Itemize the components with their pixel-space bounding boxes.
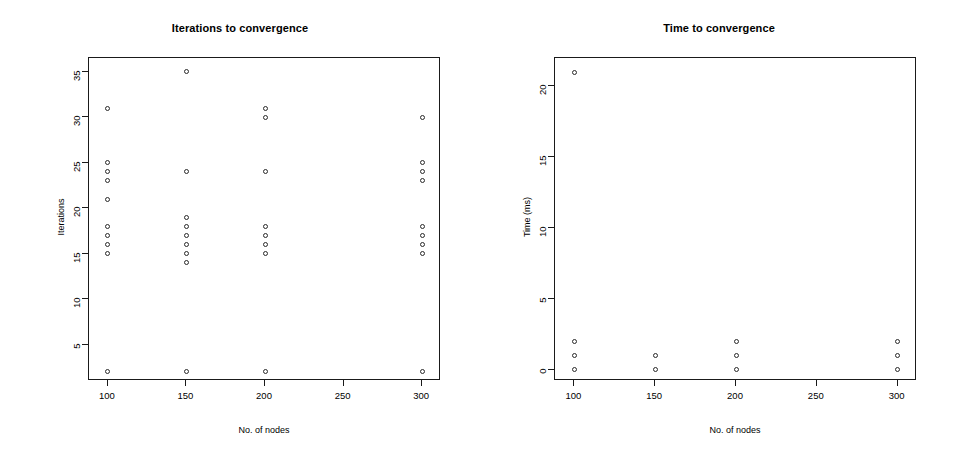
- y-axis-tick: [82, 162, 88, 163]
- data-point: [572, 353, 577, 358]
- data-point: [184, 169, 189, 174]
- x-axis-tick-label: 250: [335, 390, 351, 401]
- x-axis-tick: [654, 380, 655, 386]
- y-axis-tick-label: 5: [71, 343, 82, 361]
- data-point: [263, 369, 268, 374]
- data-point: [572, 339, 577, 344]
- y-axis-tick: [548, 369, 554, 370]
- data-point: [184, 233, 189, 238]
- data-point: [895, 367, 900, 372]
- y-axis-tick-label: 15: [71, 252, 82, 270]
- data-point: [105, 242, 110, 247]
- y-axis-tick-label: 15: [537, 156, 548, 174]
- data-point: [572, 70, 577, 75]
- y-axis-tick-label: 30: [71, 116, 82, 134]
- y-axis-tick: [548, 85, 554, 86]
- data-point: [734, 353, 739, 358]
- y-axis-tick-label: 20: [537, 85, 548, 103]
- y-axis-tick-label: 35: [71, 70, 82, 88]
- x-axis-tick: [107, 380, 108, 386]
- data-point: [263, 251, 268, 256]
- data-point: [184, 251, 189, 256]
- data-point: [184, 224, 189, 229]
- data-point: [895, 353, 900, 358]
- data-point: [263, 233, 268, 238]
- data-point: [263, 106, 268, 111]
- x-axis-tick-label: 150: [646, 390, 662, 401]
- data-point: [420, 251, 425, 256]
- x-axis-tick: [735, 380, 736, 386]
- data-point: [420, 242, 425, 247]
- data-point: [420, 233, 425, 238]
- data-point: [263, 169, 268, 174]
- y-axis-tick-label: 10: [71, 298, 82, 316]
- panel-title-right: Time to convergence: [479, 22, 959, 34]
- data-point: [420, 169, 425, 174]
- plot-area-left: [88, 57, 440, 380]
- data-point: [105, 197, 110, 202]
- data-point: [105, 178, 110, 183]
- x-axis-tick: [343, 380, 344, 386]
- x-axis-tick-label: 100: [99, 390, 115, 401]
- data-point: [263, 115, 268, 120]
- y-axis-tick: [82, 298, 88, 299]
- data-point: [653, 367, 658, 372]
- y-axis-tick: [82, 207, 88, 208]
- data-point: [105, 169, 110, 174]
- x-axis-title-right: No. of nodes: [554, 425, 916, 435]
- y-axis-tick: [548, 227, 554, 228]
- y-axis-tick-label: 20: [71, 207, 82, 225]
- figure-canvas: Iterations to convergence Iterations No.…: [0, 0, 959, 460]
- data-point: [420, 178, 425, 183]
- x-axis-tick-label: 100: [565, 390, 581, 401]
- y-axis-tick: [82, 71, 88, 72]
- y-axis-title-left: Iterations: [56, 182, 66, 252]
- data-point: [105, 106, 110, 111]
- x-axis-title-left: No. of nodes: [88, 425, 440, 435]
- data-point: [572, 367, 577, 372]
- data-point: [420, 369, 425, 374]
- data-point: [263, 224, 268, 229]
- x-axis-tick: [897, 380, 898, 386]
- panel-time-to-convergence: Time to convergence Time (ms) No. of nod…: [479, 0, 959, 460]
- data-point: [420, 224, 425, 229]
- y-axis-tick: [82, 344, 88, 345]
- data-point: [105, 233, 110, 238]
- scatter-points-left: [89, 58, 439, 379]
- data-point: [184, 242, 189, 247]
- x-axis-tick: [264, 380, 265, 386]
- data-point: [105, 369, 110, 374]
- data-point: [895, 339, 900, 344]
- x-axis-tick-label: 300: [413, 390, 429, 401]
- data-point: [184, 69, 189, 74]
- scatter-points-right: [555, 58, 915, 379]
- x-axis-tick: [185, 380, 186, 386]
- x-axis-tick-label: 150: [177, 390, 193, 401]
- panel-iterations-to-convergence: Iterations to convergence Iterations No.…: [0, 0, 480, 460]
- x-axis-tick-label: 200: [727, 390, 743, 401]
- y-axis-tick: [82, 253, 88, 254]
- y-axis-tick: [548, 156, 554, 157]
- data-point: [420, 115, 425, 120]
- data-point: [420, 160, 425, 165]
- data-point: [734, 367, 739, 372]
- y-axis-tick-label: 25: [71, 161, 82, 179]
- x-axis-tick: [573, 380, 574, 386]
- x-axis-tick-label: 250: [808, 390, 824, 401]
- data-point: [653, 353, 658, 358]
- x-axis-tick: [816, 380, 817, 386]
- data-point: [263, 242, 268, 247]
- x-axis-tick: [421, 380, 422, 386]
- y-axis-tick: [82, 116, 88, 117]
- y-axis-tick-label: 5: [537, 297, 548, 315]
- y-axis-tick-label: 0: [537, 368, 548, 386]
- panel-title-left: Iterations to convergence: [0, 22, 480, 34]
- data-point: [105, 251, 110, 256]
- y-axis-title-right: Time (ms): [522, 182, 532, 252]
- plot-area-right: [554, 57, 916, 380]
- data-point: [734, 339, 739, 344]
- y-axis-tick-label: 10: [537, 227, 548, 245]
- x-axis-tick-label: 300: [889, 390, 905, 401]
- data-point: [105, 224, 110, 229]
- data-point: [184, 215, 189, 220]
